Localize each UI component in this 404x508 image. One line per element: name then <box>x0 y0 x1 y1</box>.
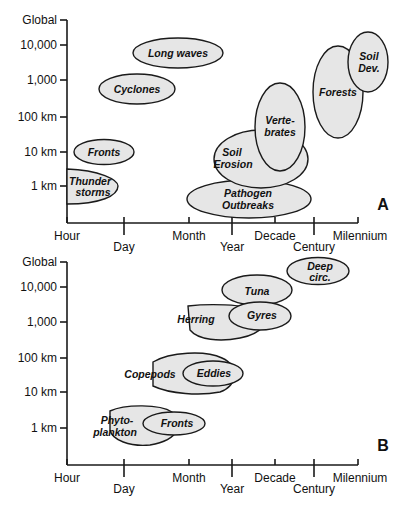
scale-diagram: Global 10,000 1,000 100 km 10 km 1 km Ho… <box>0 0 404 508</box>
x-tick-label: Day <box>113 240 134 254</box>
region-label: Verte- <box>265 114 295 126</box>
y-tick-label: 10,000 <box>20 38 57 52</box>
region-label: Cyclones <box>114 83 161 95</box>
y-tick-label: 1 km <box>31 179 57 193</box>
x-tick-label: Month <box>172 229 205 243</box>
y-tick-label: 10 km <box>24 385 57 399</box>
x-tick-label: Day <box>113 482 134 496</box>
region-label: Phyto- <box>101 414 134 426</box>
region-label: Erosion <box>213 158 252 170</box>
region-label: Herring <box>177 313 215 325</box>
region-label: plankton <box>92 426 137 438</box>
region-label: Dev. <box>358 62 380 74</box>
region-label: Soil <box>222 146 242 158</box>
x-tick-label: Milennium <box>333 471 388 485</box>
region-label: Fronts <box>161 417 194 429</box>
region-label: Outbreaks <box>222 199 274 211</box>
region-label: Long waves <box>148 47 208 59</box>
y-tick-label: 10 km <box>24 145 57 159</box>
panel-b-letter: B <box>377 437 389 454</box>
x-tick-label: Hour <box>54 229 80 243</box>
region-label: Gyres <box>247 309 277 321</box>
region-label: Eddies <box>197 367 232 379</box>
panel-b: Global 10,000 1,000 100 km 10 km 1 km Ho… <box>18 255 389 496</box>
x-tick-label: Decade <box>254 471 296 485</box>
region-label: Fronts <box>88 146 121 158</box>
x-tick-label: Decade <box>254 229 296 243</box>
panel-b-y-ticks: Global 10,000 1,000 100 km 10 km 1 km <box>18 255 67 435</box>
y-tick-label: 100 km <box>18 351 57 365</box>
y-tick-label: Global <box>22 255 57 269</box>
y-tick-label: 100 km <box>18 110 57 124</box>
y-tick-label: 1,000 <box>27 73 57 87</box>
region-label: Pathogen <box>224 187 272 199</box>
y-tick-label: 10,000 <box>20 280 57 294</box>
x-tick-label: Year <box>220 240 244 254</box>
y-tick-label: Global <box>22 13 57 27</box>
x-tick-label: Hour <box>54 471 80 485</box>
x-tick-label: Milennium <box>333 229 388 243</box>
region-label: Forests <box>319 86 357 98</box>
region-label: Copepods <box>124 368 175 380</box>
panel-a-y-ticks: Global 10,000 1,000 100 km 10 km 1 km <box>18 13 67 193</box>
panel-a-letter: A <box>377 196 389 213</box>
y-tick-label: 1,000 <box>27 315 57 329</box>
y-tick-label: 1 km <box>31 421 57 435</box>
region-label: brates <box>264 126 296 138</box>
x-tick-label: Century <box>293 240 335 254</box>
region-label: Tuna <box>245 285 270 297</box>
panel-a: Global 10,000 1,000 100 km 10 km 1 km Ho… <box>18 13 390 254</box>
x-tick-label: Year <box>220 482 244 496</box>
region-label: Soil <box>359 50 379 62</box>
region-label: circ. <box>309 271 331 283</box>
region-label: storms <box>75 186 110 198</box>
x-tick-label: Month <box>172 471 205 485</box>
x-tick-label: Century <box>293 482 335 496</box>
